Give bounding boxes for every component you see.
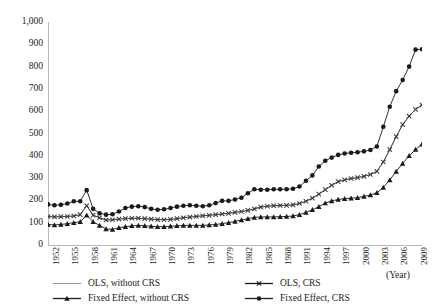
- series-1: [48, 103, 422, 222]
- series-marker: [413, 107, 417, 111]
- x-tick-label: 1955: [71, 247, 80, 265]
- series-marker: [226, 199, 231, 204]
- chart-legend: OLS, without CRSOLS, CRSFixed Effect, wi…: [52, 276, 420, 306]
- legend-item[interactable]: OLS, without CRS: [52, 276, 244, 291]
- series-marker: [381, 160, 385, 164]
- x-tick-label: 1985: [265, 247, 274, 265]
- series-marker: [291, 187, 296, 192]
- x-tick-label: 1982: [245, 247, 254, 265]
- series-marker: [413, 47, 418, 52]
- series-marker: [323, 158, 328, 163]
- x-tick-label: 1997: [342, 247, 351, 265]
- series-marker: [213, 201, 218, 206]
- series-marker: [188, 203, 193, 208]
- legend-marker-cross-icon: [244, 278, 274, 289]
- legend-label: OLS, CRS: [280, 279, 321, 289]
- series-marker: [71, 199, 76, 204]
- x-tick-label: 1961: [110, 247, 119, 265]
- x-tick-label: 2009: [420, 247, 429, 265]
- series-marker: [246, 191, 251, 196]
- series-marker: [239, 195, 244, 200]
- series-marker: [310, 173, 315, 178]
- series-marker: [84, 188, 89, 193]
- series-marker: [407, 64, 412, 69]
- series-marker: [317, 192, 321, 196]
- series-marker: [330, 183, 334, 187]
- series-marker: [394, 89, 399, 94]
- series-marker: [304, 178, 309, 183]
- y-tick-label: 100: [29, 218, 48, 228]
- y-tick-label: 300: [29, 173, 48, 183]
- series-marker: [104, 212, 109, 217]
- series-marker: [381, 125, 386, 130]
- y-tick-label: 400: [29, 151, 48, 161]
- y-tick-label: 900: [29, 40, 48, 50]
- series-marker: [342, 151, 347, 156]
- series-marker: [123, 206, 128, 211]
- series-marker: [117, 209, 122, 214]
- legend-item[interactable]: Fixed Effect, CRS: [244, 291, 420, 306]
- series-marker: [155, 207, 160, 212]
- x-tick-label: 2003: [381, 247, 390, 265]
- series-marker: [110, 212, 115, 217]
- series-marker: [130, 204, 135, 209]
- x-tick-label: 1976: [207, 247, 216, 265]
- series-marker: [407, 114, 411, 118]
- series-marker: [207, 203, 212, 208]
- series-marker: [142, 205, 147, 210]
- legend-marker-none-icon: [52, 278, 82, 289]
- series-marker: [91, 207, 96, 212]
- series-marker: [316, 204, 321, 209]
- series-line: [48, 144, 422, 229]
- series-marker: [149, 207, 154, 212]
- series-marker: [400, 122, 404, 126]
- series-marker: [284, 187, 289, 192]
- legend-label: Fixed Effect, CRS: [280, 294, 350, 304]
- legend-item[interactable]: Fixed Effect, without CRS: [52, 291, 244, 306]
- series-marker: [97, 223, 102, 228]
- series-marker: [252, 187, 257, 192]
- series-marker: [181, 203, 186, 208]
- series-marker: [368, 148, 373, 153]
- y-tick-label: 200: [29, 196, 48, 206]
- series-marker: [278, 187, 283, 192]
- legend-marker-triangle-icon: [52, 293, 82, 304]
- chart-figure: 01002003004005006007008009001,000 195219…: [0, 0, 437, 308]
- series-marker: [303, 210, 308, 215]
- legend-item[interactable]: OLS, CRS: [244, 276, 420, 291]
- x-tick-label: 1991: [303, 247, 312, 265]
- y-tick-label: 0: [38, 240, 48, 250]
- series-marker: [420, 103, 422, 107]
- x-tick-label: 1994: [323, 247, 332, 265]
- series-marker: [355, 150, 360, 155]
- series-marker: [258, 187, 263, 192]
- series-marker: [349, 150, 354, 155]
- x-tick-label: 2000: [362, 247, 371, 265]
- series-marker: [97, 211, 102, 216]
- x-tick-label: 1988: [284, 247, 293, 265]
- series-marker: [168, 206, 173, 211]
- series-marker: [394, 134, 398, 138]
- series-marker: [387, 104, 392, 109]
- x-tick-label: 1979: [226, 247, 235, 265]
- series-marker: [220, 199, 225, 204]
- series-marker: [162, 207, 167, 212]
- series-marker: [317, 164, 322, 169]
- series-marker: [323, 187, 327, 191]
- series-marker: [375, 144, 380, 149]
- series-marker: [84, 204, 88, 208]
- series-line: [48, 105, 422, 220]
- x-axis-line: [48, 245, 422, 246]
- series-marker: [59, 203, 64, 208]
- y-tick-label: 500: [29, 129, 48, 139]
- x-tick-label: 1973: [187, 247, 196, 265]
- x-tick-label: 2006: [400, 247, 409, 265]
- series-marker: [400, 78, 405, 83]
- series-marker: [271, 187, 276, 192]
- y-tick-label: 600: [29, 106, 48, 116]
- series-marker: [310, 207, 315, 212]
- series-0: [48, 105, 422, 220]
- y-tick-label: 1,000: [22, 17, 48, 27]
- y-tick-label: 800: [29, 62, 48, 72]
- x-tick-label: 1964: [129, 247, 138, 265]
